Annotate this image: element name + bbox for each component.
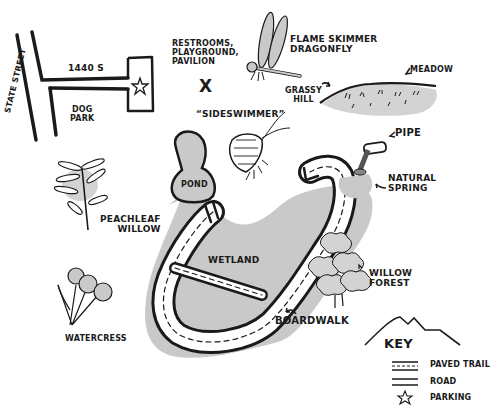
- parking-lot: [128, 57, 153, 111]
- pond-label: Pond: [181, 181, 208, 190]
- meadow-label: Meadow: [410, 66, 453, 75]
- sideswimmer-label: “Sideswimmer”: [196, 109, 285, 119]
- natural-spring-label: Natural Spring: [388, 173, 436, 193]
- wetland-label: Wetland: [208, 255, 259, 265]
- pipe-label: Pipe: [395, 127, 421, 138]
- key-title: Key: [384, 337, 413, 352]
- facilities-label: Restrooms, Playground, Pavilion: [172, 40, 239, 67]
- pond: [172, 132, 215, 203]
- facilities-marker: X: [199, 77, 212, 96]
- sideswimmer-illustration: [230, 112, 290, 180]
- road-symbol-icon: [392, 379, 418, 385]
- willow-forest-label: Willow Forest: [369, 268, 412, 288]
- parking-star-icon: [132, 78, 148, 94]
- watercress-label: Watercress: [65, 335, 127, 344]
- dog-park-label: Dog Park: [70, 106, 94, 124]
- peachleaf-willow-label: Peachleaf Willow: [100, 214, 161, 234]
- key-item-paved-trail: Paved Trail: [430, 361, 490, 370]
- grassy-hill-label: Grassy Hill: [285, 87, 322, 105]
- grassy-hill-arrow-icon: [322, 82, 330, 86]
- parking-symbol-star-icon: [398, 391, 412, 404]
- dragonfly-label: Flame Skimmer Dragonfly: [290, 34, 377, 54]
- watercress-illustration: [58, 268, 112, 325]
- boardwalk-label: Boardwalk: [275, 315, 349, 326]
- paved-trail-symbol-icon: [392, 362, 418, 370]
- spring-arrow-icon: [376, 184, 386, 188]
- grassy-hill: [320, 68, 437, 116]
- key-symbols: [392, 362, 418, 404]
- key-item-road: Road: [430, 378, 456, 387]
- key-item-parking: Parking: [430, 394, 471, 403]
- cross-street-label: 1440 S: [68, 63, 104, 73]
